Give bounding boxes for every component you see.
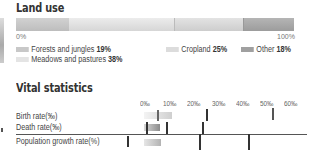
tick-0: 0‰ — [140, 99, 150, 108]
marker-death-rate-2 — [166, 122, 168, 134]
legend-forests-value: 19% — [96, 44, 110, 54]
legend-forests: Forests and jungles 19% — [16, 44, 111, 54]
land-use-axis-end: 100% — [277, 33, 295, 40]
tick-10: 10‰ — [163, 99, 176, 108]
divider-line — [16, 134, 307, 135]
legend-meadows-label: Meadows and pastures — [31, 54, 106, 64]
row-label-population-growth: Population growth rate(%) — [16, 136, 100, 146]
legend-cropland-label: Cropland — [181, 44, 210, 54]
marker-death-rate-3 — [202, 122, 204, 134]
row-label-birth-rate: Birth rate(‰) — [16, 111, 57, 121]
swatch-forests — [16, 47, 29, 52]
tick-50: 50‰ — [260, 99, 273, 108]
legend-cropland-value: 25% — [213, 44, 227, 54]
tick-30: 30‰ — [212, 99, 225, 108]
segment-cropland — [174, 18, 244, 31]
marker-population-growth-2 — [248, 134, 250, 150]
legend-other-value: 18% — [276, 44, 290, 54]
row-label-death-rate: Death rate(‰) — [16, 122, 62, 132]
legend-other-label: Other — [256, 44, 274, 54]
vital-statistics-title: Vital statistics — [16, 81, 93, 95]
legend-meadows-value: 38% — [108, 54, 122, 64]
segment-meadows — [69, 18, 174, 31]
tick-40: 40‰ — [236, 99, 249, 108]
legend-meadows: Meadows and pastures 38% — [16, 54, 122, 64]
marker-population-growth-1 — [199, 134, 201, 150]
land-use-title: Land use — [16, 1, 64, 15]
swatch-other — [241, 47, 254, 52]
cropped-edge-graphic — [0, 18, 4, 63]
segment-other — [243, 18, 294, 31]
tick-60: 60‰ — [284, 99, 297, 108]
legend-cropland: Cropland 25% — [166, 44, 227, 54]
marker-birth-rate-1 — [157, 110, 159, 121]
swatch-meadows — [16, 57, 29, 62]
segment-forests — [16, 18, 69, 31]
land-use-stacked-bar — [16, 18, 293, 31]
marker-birth-rate-2 — [206, 109, 208, 121]
marker-death-rate-1 — [146, 122, 148, 134]
legend-other: Other 18% — [241, 44, 291, 54]
cropped-edge-dot — [1, 128, 3, 132]
legend-forests-label: Forests and jungles — [31, 44, 94, 54]
marker-birth-rate-3 — [272, 108, 274, 120]
bar-population-growth — [144, 139, 161, 146]
land-use-axis-start: 0% — [16, 33, 26, 40]
tick-20: 20‰ — [187, 99, 200, 108]
row-label-cursor-bar — [127, 136, 129, 147]
swatch-cropland — [166, 47, 179, 52]
